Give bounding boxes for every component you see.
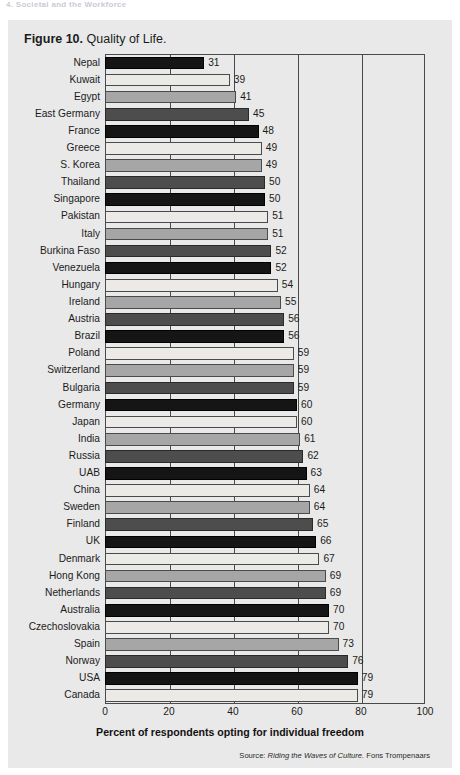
bar-value-label: 56	[288, 329, 299, 343]
bar	[105, 433, 300, 446]
bar-category-label: Kuwait	[0, 73, 100, 87]
bar-category-label: Sweden	[0, 500, 100, 514]
bar-row: India61	[105, 430, 425, 447]
bar-value-label: 79	[362, 671, 373, 685]
bar	[105, 347, 294, 360]
bar	[105, 330, 284, 343]
bar-row: Hungary54	[105, 276, 425, 293]
bar-row: Bulgaria59	[105, 379, 425, 396]
bar-row: Finland65	[105, 516, 425, 533]
bar-value-label: 73	[343, 637, 354, 651]
bar-category-label: Germany	[0, 398, 100, 412]
bar	[105, 74, 230, 87]
source-author: Fons Trompenaars	[366, 751, 430, 760]
bar-value-label: 59	[298, 381, 309, 395]
source-title: Riding the Waves of Culture.	[268, 751, 365, 760]
bar-category-label: USA	[0, 671, 100, 685]
bar-row: East Germany45	[105, 105, 425, 122]
bar-category-label: Switzerland	[0, 363, 100, 377]
bar-category-label: Singapore	[0, 192, 100, 206]
bar-category-label: Greece	[0, 141, 100, 155]
figure-panel: Figure 10. Quality of Life. Nepal31Kuwai…	[8, 20, 452, 768]
bar	[105, 228, 268, 241]
bar	[105, 467, 307, 480]
bar-category-label: East Germany	[0, 107, 100, 121]
bar-row: Kuwait39	[105, 71, 425, 88]
bar-row: Austria56	[105, 311, 425, 328]
bar	[105, 262, 271, 275]
bar-value-label: 69	[330, 569, 341, 583]
bar	[105, 313, 284, 326]
bar-category-label: Japan	[0, 415, 100, 429]
x-axis-title: Percent of respondents opting for indivi…	[8, 726, 452, 738]
bar-row: Nepal31	[105, 54, 425, 71]
bar-value-label: 63	[311, 466, 322, 480]
bar-row: S. Korea49	[105, 157, 425, 174]
bar	[105, 57, 204, 70]
bar-category-label: Denmark	[0, 552, 100, 566]
bar-value-label: 51	[272, 227, 283, 241]
page-running-head: 4. Societal and the Workforce	[6, 0, 246, 9]
bar-value-label: 70	[333, 603, 344, 617]
bar-value-label: 76	[352, 654, 363, 668]
bar	[105, 176, 265, 189]
bar-row: Pakistan51	[105, 208, 425, 225]
bar-row: USA79	[105, 670, 425, 687]
bar-category-label: Poland	[0, 346, 100, 360]
bar-category-label: Hong Kong	[0, 569, 100, 583]
bar-category-label: S. Korea	[0, 158, 100, 172]
bar-row: Norway76	[105, 653, 425, 670]
bar	[105, 364, 294, 377]
bar-row: Singapore50	[105, 191, 425, 208]
bar-category-label: Venezuela	[0, 261, 100, 275]
bar-category-label: China	[0, 483, 100, 497]
bar	[105, 399, 297, 412]
bar-value-label: 50	[269, 175, 280, 189]
bar-value-label: 54	[282, 278, 293, 292]
bar	[105, 296, 281, 309]
bar-row: UK66	[105, 533, 425, 550]
bar-value-label: 49	[266, 141, 277, 155]
bar-value-label: 52	[275, 261, 286, 275]
bar-value-label: 64	[314, 500, 325, 514]
bar	[105, 672, 358, 685]
bar	[105, 501, 310, 514]
bar-row: Sweden64	[105, 499, 425, 516]
bar-category-label: Russia	[0, 449, 100, 463]
bar-row: Canada79	[105, 687, 425, 704]
bar	[105, 689, 358, 702]
bar-value-label: 60	[301, 415, 312, 429]
bar-value-label: 62	[307, 449, 318, 463]
bar-rows: Nepal31Kuwait39Egypt41East Germany45Fran…	[105, 54, 425, 704]
bar-category-label: Italy	[0, 227, 100, 241]
source-note: Source: Riding the Waves of Culture. Fon…	[239, 751, 430, 760]
bar-category-label: Pakistan	[0, 209, 100, 223]
x-tick-label-40: 40	[227, 706, 238, 717]
x-tick-label-80: 80	[355, 706, 366, 717]
bar	[105, 621, 329, 634]
bar-value-label: 45	[253, 107, 264, 121]
bar	[105, 211, 268, 224]
bar-value-label: 64	[314, 483, 325, 497]
x-tick-label-20: 20	[163, 706, 174, 717]
bar	[105, 450, 303, 463]
bar-value-label: 67	[323, 552, 334, 566]
bar-value-label: 31	[208, 56, 219, 70]
bar-row: Poland59	[105, 345, 425, 362]
bar-row: Burkina Faso52	[105, 242, 425, 259]
bar-value-label: 56	[288, 312, 299, 326]
bar-category-label: Nepal	[0, 56, 100, 70]
bar-category-label: Australia	[0, 603, 100, 617]
bar-value-label: 65	[317, 517, 328, 531]
bar-category-label: Ireland	[0, 295, 100, 309]
bar	[105, 484, 310, 497]
bar-value-label: 41	[240, 90, 251, 104]
x-axis: 020406080100	[105, 706, 425, 722]
bar-row: Ireland55	[105, 293, 425, 310]
bar	[105, 125, 259, 138]
bar-value-label: 61	[304, 432, 315, 446]
bar	[105, 536, 316, 549]
bar	[105, 638, 339, 651]
bar-row: Egypt41	[105, 88, 425, 105]
bar-category-label: Canada	[0, 688, 100, 702]
